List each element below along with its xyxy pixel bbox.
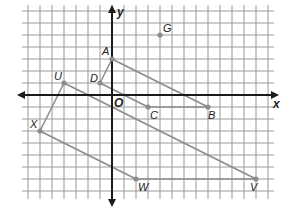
point-label-C: C — [150, 109, 158, 121]
point-G — [157, 32, 162, 37]
point-U — [61, 80, 66, 85]
point-label-W: W — [138, 181, 150, 193]
point-label-X: X — [29, 118, 38, 130]
point-label-D: D — [90, 72, 98, 84]
y-axis-label: y — [116, 5, 125, 19]
y-axis-arrow-up-icon — [108, 5, 116, 13]
point-D — [97, 80, 102, 85]
point-label-B: B — [208, 109, 215, 121]
y-axis-arrow-down-icon — [108, 199, 116, 207]
x-axis-label: x — [272, 97, 281, 111]
coordinate-plane: ADCBGUXWV x y O — [0, 0, 296, 216]
point-A — [109, 56, 114, 61]
point-label-G: G — [163, 22, 172, 34]
point-label-U: U — [54, 70, 62, 82]
point-label-A: A — [101, 45, 109, 57]
origin-label: O — [114, 96, 124, 110]
x-axis-arrow-left-icon — [17, 91, 25, 99]
point-X — [37, 128, 42, 133]
